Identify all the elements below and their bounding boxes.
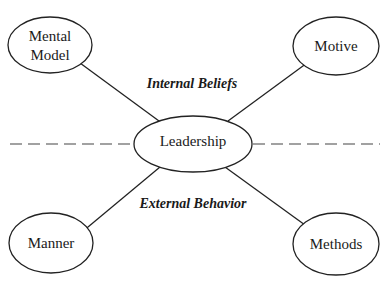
node-mental-model: Mental Model [8,17,92,73]
node-methods: Methods [293,213,379,275]
center-label: Leadership [160,133,227,149]
node-manner: Manner [9,213,93,273]
node-leadership: Leadership [134,116,252,172]
edge-mental-model [80,63,159,121]
edge-motive [228,63,307,121]
node-label: Methods [310,236,363,252]
region-label-external-behavior: External Behavior [139,196,248,211]
node-label-line2: Model [30,47,69,63]
node-label-line1: Mental [29,28,72,44]
node-label: Manner [28,235,75,251]
node-label: Motive [314,38,358,54]
leadership-diagram: Mental Model Motive Leadership Manner Me… [0,0,386,287]
region-label-internal-beliefs: Internal Beliefs [146,76,238,91]
node-motive: Motive [293,17,379,75]
